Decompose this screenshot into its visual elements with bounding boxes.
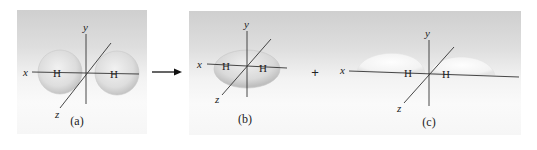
y-axis-label: y (424, 27, 430, 39)
atom-label-h2: H (442, 68, 450, 80)
diagram-c: x y z H H (c) (339, 27, 519, 129)
atom-label-h2: H (259, 62, 267, 74)
x-axis-label: x (339, 64, 345, 76)
x-axis-label: x (22, 66, 28, 78)
panel-b-c: x y z H H (b) + x y z H H (c) (189, 11, 521, 135)
atom-label-h1: H (404, 67, 412, 79)
z-axis-label: z (54, 108, 60, 120)
caption-a: (a) (70, 114, 83, 128)
reaction-arrow-icon (150, 64, 184, 80)
diagram-b: x y z H H (b) (196, 18, 287, 126)
y-axis-label: y (243, 18, 249, 30)
y-axis-label: y (82, 21, 88, 33)
caption-b: (b) (238, 112, 252, 126)
atom-label-h1: H (53, 67, 61, 79)
caption-c: (c) (422, 115, 435, 129)
panel-a: x y z H H (a) (17, 10, 147, 134)
z-axis-label: z (214, 93, 220, 105)
orbital-lobe-left (357, 53, 425, 73)
plus-sign: + (311, 65, 319, 80)
atom-label-h2: H (110, 68, 118, 80)
orbital-lobe-right (429, 57, 495, 75)
x-axis-label: x (196, 58, 202, 70)
atom-label-h1: H (222, 60, 230, 72)
z-axis-label: z (396, 102, 402, 114)
